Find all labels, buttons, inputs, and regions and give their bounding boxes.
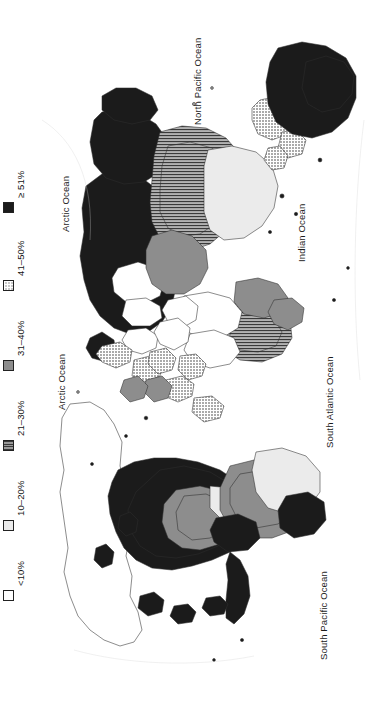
world-map[interactable]: North Pacific Ocean Arctic Ocean Arctic … — [34, 0, 386, 711]
island-speck-10 — [77, 391, 80, 394]
island-speck-12 — [347, 267, 350, 270]
world-map-graphic — [34, 0, 386, 711]
legend-swatch-41-50-icon — [3, 280, 14, 291]
legend-item-5[interactable]: ≥ 51% — [0, 176, 34, 272]
island-speck-9 — [91, 463, 94, 466]
island-speck-13 — [240, 638, 243, 641]
island-speck-4 — [318, 158, 322, 162]
legend-swatch-10-20-icon — [3, 520, 14, 531]
island-speck-14 — [213, 659, 216, 662]
island-speck-5 — [192, 102, 195, 105]
legend-swatch-21-30-icon — [3, 440, 14, 451]
legend-swatch-lt10-icon — [3, 590, 14, 601]
island-speck-3 — [268, 230, 271, 233]
island-speck-6 — [211, 87, 214, 90]
island-speck-1 — [280, 194, 284, 198]
island-speck-2 — [294, 212, 297, 215]
legend-swatch-gte51-icon — [3, 202, 14, 213]
legend-label-5: ≥ 51% — [13, 102, 29, 198]
map-legend: <10% 10–20% 21–30% 31–40% 41–50% ≥ 51% — [0, 0, 34, 711]
island-speck-11 — [332, 298, 335, 301]
island-speck-7 — [144, 416, 148, 420]
legend-swatch-31-40-icon — [3, 360, 14, 371]
island-speck-8 — [125, 435, 128, 438]
choropleth-figure: <10% 10–20% 21–30% 31–40% 41–50% ≥ 51% — [0, 0, 386, 711]
